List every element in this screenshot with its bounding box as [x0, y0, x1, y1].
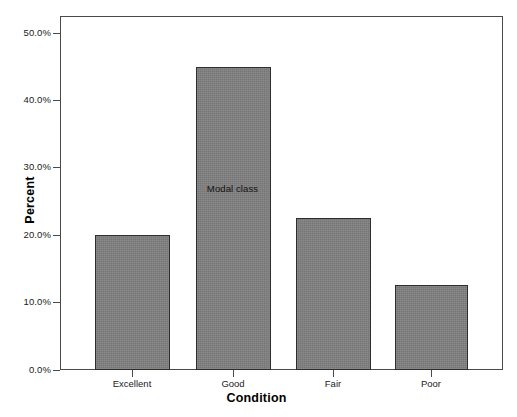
y-tick-mark-0	[53, 370, 60, 371]
modal-class-annotation: Modal class	[207, 182, 258, 193]
x-tick-mark-good	[233, 370, 234, 377]
y-tick-mark-10	[53, 302, 60, 303]
y-axis-title: Percent	[23, 176, 37, 223]
y-tick-label-0: 0.0%	[29, 365, 51, 375]
y-tick-label-50: 50.0%	[24, 28, 51, 38]
bar-chart: Percent 50.0% 40.0% 30.0% 20.0% 10.0% 0.…	[0, 0, 517, 417]
y-tick-label-10: 10.0%	[24, 297, 51, 307]
y-tick-mark-20	[53, 235, 60, 236]
y-tick-mark-40	[53, 100, 60, 101]
x-tick-label-poor: Poor	[421, 378, 441, 389]
x-tick-mark-excellent	[132, 370, 133, 377]
bar-poor	[395, 285, 468, 369]
y-tick-mark-30	[53, 167, 60, 168]
x-tick-label-good: Good	[221, 378, 244, 389]
x-tick-label-fair: Fair	[325, 378, 341, 389]
y-tick-label-40: 40.0%	[24, 95, 51, 105]
x-tick-label-excellent: Excellent	[113, 378, 152, 389]
x-tick-mark-poor	[431, 370, 432, 377]
bar-good	[196, 67, 271, 370]
y-tick-mark-50	[53, 33, 60, 34]
x-axis-title: Condition	[226, 391, 286, 405]
bar-fair	[296, 218, 371, 369]
plot-area: Modal class	[62, 18, 502, 370]
y-tick-label-20: 20.0%	[24, 230, 51, 240]
bar-excellent	[95, 235, 170, 370]
x-axis-title-wrapper: Condition	[0, 391, 517, 405]
x-tick-mark-fair	[333, 370, 334, 377]
y-tick-label-30: 30.0%	[24, 162, 51, 172]
